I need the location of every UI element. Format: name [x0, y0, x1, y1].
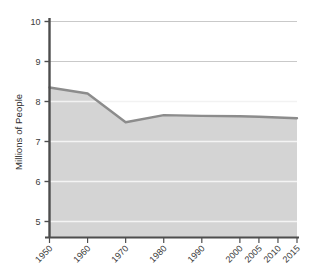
y-tick-label-7: 7: [35, 137, 40, 147]
y-tick-label-10: 10: [30, 17, 40, 27]
y-tick-label-9: 9: [35, 57, 40, 67]
y-tick-label-8: 8: [35, 97, 40, 107]
y-axis-title: Millions of People: [13, 94, 24, 170]
y-tick-label-6: 6: [35, 177, 40, 187]
y-tick-label-5: 5: [35, 217, 40, 227]
area-chart: 1098765 19501960197019801990200020052010…: [0, 0, 310, 278]
chart-container: 1098765 19501960197019801990200020052010…: [0, 0, 310, 278]
